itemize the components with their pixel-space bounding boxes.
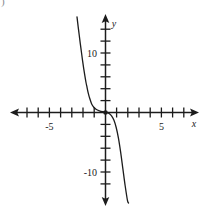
y-axis-label: y [111,18,117,29]
y-axis-group: 10 -10 y [84,14,117,206]
x-tick-label-pos5: 5 [159,121,164,132]
y-tick-label-pos10: 10 [87,48,97,59]
coordinate-plane: -5 5 x [0,0,203,210]
x-tick-label-neg5: -5 [45,121,53,132]
x-axis-label: x [191,118,197,129]
y-tick-label-neg10: -10 [84,167,97,178]
graph-figure: ) -5 [0,0,203,210]
